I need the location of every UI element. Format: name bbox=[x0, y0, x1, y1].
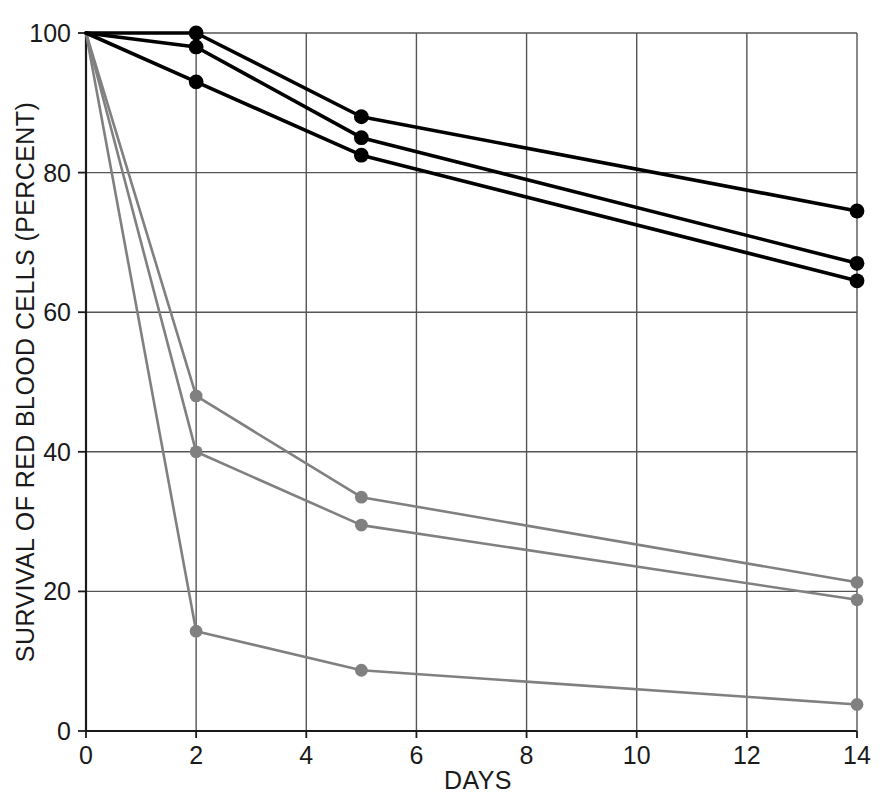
y-tick-label: 20 bbox=[43, 577, 71, 605]
data-point-marker bbox=[190, 390, 203, 403]
y-tick-label: 80 bbox=[43, 159, 71, 187]
data-point-marker bbox=[354, 148, 369, 163]
x-tick-label: 2 bbox=[189, 741, 203, 769]
x-tick-label: 4 bbox=[299, 741, 313, 769]
x-tick-label: 8 bbox=[520, 741, 534, 769]
x-tick-label: 12 bbox=[733, 741, 761, 769]
y-tick-label: 40 bbox=[43, 438, 71, 466]
chart-container: 02468101214 020406080100 DAYS SURVIVAL O… bbox=[0, 0, 890, 811]
y-tick-label: 0 bbox=[57, 717, 71, 745]
x-tick-label: 14 bbox=[843, 741, 871, 769]
data-point-marker bbox=[189, 26, 204, 41]
chart-background bbox=[0, 0, 890, 811]
x-tick-label: 6 bbox=[409, 741, 423, 769]
x-axis-title: DAYS bbox=[444, 766, 512, 794]
y-axis-title: SURVIVAL OF RED BLOOD CELLS (PERCENT) bbox=[11, 102, 39, 662]
x-tick-label: 0 bbox=[79, 741, 93, 769]
data-point-marker bbox=[355, 664, 368, 677]
data-point-marker bbox=[851, 576, 864, 589]
data-point-marker bbox=[190, 625, 203, 638]
x-tick-label: 10 bbox=[623, 741, 651, 769]
y-tick-label: 60 bbox=[43, 298, 71, 326]
data-point-marker bbox=[189, 74, 204, 89]
data-point-marker bbox=[354, 130, 369, 145]
data-point-marker bbox=[850, 204, 865, 219]
data-point-marker bbox=[355, 519, 368, 532]
data-point-marker bbox=[190, 445, 203, 458]
data-point-marker bbox=[189, 40, 204, 55]
data-point-marker bbox=[851, 593, 864, 606]
data-point-marker bbox=[354, 109, 369, 124]
data-point-marker bbox=[850, 256, 865, 271]
data-point-marker bbox=[850, 273, 865, 288]
data-point-marker bbox=[355, 491, 368, 504]
data-point-marker bbox=[851, 698, 864, 711]
line-chart: 02468101214 020406080100 DAYS SURVIVAL O… bbox=[0, 0, 890, 811]
y-tick-label: 100 bbox=[29, 19, 71, 47]
